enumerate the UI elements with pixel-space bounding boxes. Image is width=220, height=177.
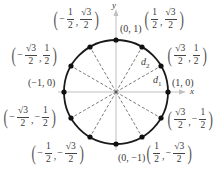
label-point-30deg: ( √32 , 12 ) (166, 44, 208, 66)
d2-label: d2 (141, 56, 150, 70)
point-60deg (139, 44, 144, 49)
point-30deg (158, 63, 163, 68)
label-point-0deg: (1, 0) (172, 77, 194, 88)
d1-label: d1 (153, 74, 162, 88)
point-270deg (113, 141, 118, 146)
label-point-150deg: ( − √32 , 12 ) (10, 44, 59, 66)
label-point-60deg: ( 12 , √32 ) (143, 8, 185, 30)
label-point-90deg: (0, 1) (120, 23, 142, 34)
label-point-330deg: ( √32 , − 12 ) (166, 108, 215, 130)
point-150deg (68, 63, 73, 68)
point-330deg (158, 115, 163, 120)
y-axis-label: y (112, 0, 116, 10)
label-point-210deg: ( − √32 , − 12 ) (2, 106, 57, 128)
point-210deg (68, 115, 73, 120)
point-120deg (87, 44, 92, 49)
label-point-120deg: ( − 12 , √32 ) (52, 8, 101, 30)
point-300deg (139, 134, 144, 139)
label-point-300deg: ( 12 , − √32 ) (145, 142, 194, 164)
point-240deg (87, 134, 92, 139)
label-point-270deg: (0, −1) (118, 152, 145, 163)
x-axis-arrow-icon (179, 90, 186, 95)
label-point-240deg: ( − 12 , − √32 ) (30, 142, 85, 164)
point-90deg (113, 37, 118, 42)
point-180deg (61, 89, 66, 94)
label-point-180deg: (−1, 0) (28, 77, 55, 88)
y-axis-arrow-icon (114, 9, 119, 16)
point-0deg (165, 89, 170, 94)
